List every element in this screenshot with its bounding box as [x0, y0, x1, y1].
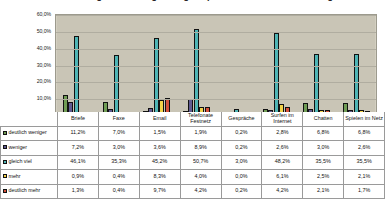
table-cell: 0,2% [221, 184, 262, 199]
table-cell: 35,3% [98, 155, 139, 170]
legend-label: deutlich weniger [9, 129, 47, 135]
table-cell: 4,0% [180, 170, 221, 185]
bar [354, 54, 359, 114]
legend-row-header: gleich viel [1, 155, 58, 170]
category-header: Gespräche [221, 112, 262, 126]
category-header: Spielen im Netz [344, 112, 385, 126]
table-header-row: BriefeFaxeEmailTelefonate FestnetzGesprä… [1, 112, 385, 126]
category-header: Briefe [58, 112, 99, 126]
table-cell: 0,4% [98, 184, 139, 199]
category-header: Telefonate Festnetz [180, 112, 221, 126]
table-cell: 8,3% [139, 170, 180, 185]
table-cell: 2,5% [303, 170, 344, 185]
legend-label: deutlich mehr [9, 187, 41, 193]
table-cell: 0,9% [58, 170, 99, 185]
y-axis-tick-label: 60,0% [37, 11, 51, 17]
y-axis-tick-label: 40,0% [37, 45, 51, 51]
table-cell: 4,2% [262, 184, 303, 199]
table-cell: 0,4% [98, 170, 139, 185]
data-table: BriefeFaxeEmailTelefonate FestnetzGesprä… [0, 112, 385, 199]
table-cell: 3,0% [221, 155, 262, 170]
bar [274, 33, 279, 114]
table-cell: 1,7% [344, 184, 385, 199]
category-header: Faxe [98, 112, 139, 126]
y-axis-labels: 60,0%50,0%40,0%30,0%20,0%10,0%0,0% [0, 11, 54, 115]
table-cell: 0,2% [221, 126, 262, 141]
gridline [56, 15, 376, 16]
table-corner [1, 112, 58, 126]
gridline [56, 66, 376, 67]
legend-swatch-icon [3, 145, 7, 149]
table-cell: 1,9% [180, 126, 221, 141]
table-cell: 1,5% [139, 126, 180, 141]
table-cell: 2,1% [303, 184, 344, 199]
legend-row-header: mehr [1, 170, 58, 185]
table-row: mehr0,9%0,4%8,3%4,0%0,0%6,1%2,5%2,1% [1, 170, 385, 185]
chart-page: Veränderung der Nutzungshäufigkeit priva… [0, 0, 385, 212]
legend-swatch-icon [3, 174, 7, 178]
gridline [56, 32, 376, 33]
y-axis-tick-label: 30,0% [37, 62, 51, 68]
table-cell: 2,6% [344, 141, 385, 156]
table-cell: 9,7% [139, 184, 180, 199]
table-cell: 3,0% [98, 141, 139, 156]
legend-row-header: deutlich mehr [1, 184, 58, 199]
chart-title: Veränderung der Nutzungshäufigkeit priva… [0, 0, 385, 1]
table-row: deutlich weniger11,2%7,0%1,5%1,9%0,2%2,8… [1, 126, 385, 141]
table-cell: 2,1% [344, 170, 385, 185]
table-cell: 45,2% [139, 155, 180, 170]
table-row: deutlich mehr1,3%0,4%9,7%4,2%0,2%4,2%2,1… [1, 184, 385, 199]
legend-label: gleich viel [9, 158, 32, 164]
table-cell: 11,2% [58, 126, 99, 141]
table-cell: 6,8% [344, 126, 385, 141]
bar [314, 54, 319, 114]
legend-swatch-icon [3, 189, 7, 193]
y-axis-tick-label: 50,0% [37, 28, 51, 34]
table-cell: 8,9% [180, 141, 221, 156]
table-body: deutlich weniger11,2%7,0%1,5%1,9%0,2%2,8… [1, 126, 385, 199]
table-cell: 2,6% [262, 141, 303, 156]
table-row: weniger7,2%3,0%3,6%8,9%0,2%2,6%3,0%2,6% [1, 141, 385, 156]
legend-label: mehr [9, 173, 21, 179]
table-cell: 35,5% [344, 155, 385, 170]
table-cell: 7,0% [98, 126, 139, 141]
table-cell: 48,2% [262, 155, 303, 170]
table-cell: 1,3% [58, 184, 99, 199]
category-header: Chatten [303, 112, 344, 126]
bar [114, 55, 119, 114]
table-row: gleich viel46,1%35,3%45,2%50,7%3,0%48,2%… [1, 155, 385, 170]
table-cell: 4,2% [180, 184, 221, 199]
y-axis-tick-label: 10,0% [37, 95, 51, 101]
table-cell: 2,8% [262, 126, 303, 141]
table-cell: 0,2% [221, 141, 262, 156]
table-cell: 6,1% [262, 170, 303, 185]
gridline [56, 99, 376, 100]
legend-row-header: weniger [1, 141, 58, 156]
gridline [56, 82, 376, 83]
legend-swatch-icon [3, 131, 7, 135]
plot-area [55, 14, 377, 115]
legend-row-header: deutlich weniger [1, 126, 58, 141]
table-cell: 6,8% [303, 126, 344, 141]
table-cell: 50,7% [180, 155, 221, 170]
table-cell: 3,0% [303, 141, 344, 156]
bar [194, 29, 199, 114]
table-cell: 46,1% [58, 155, 99, 170]
table-cell: 0,0% [221, 170, 262, 185]
category-header: Email [139, 112, 180, 126]
table-cell: 35,5% [303, 155, 344, 170]
legend-swatch-icon [3, 160, 7, 164]
y-axis-tick-label: 20,0% [37, 78, 51, 84]
legend-label: weniger [9, 144, 28, 150]
table-cell: 7,2% [58, 141, 99, 156]
gridline [56, 49, 376, 50]
category-header: Surfen im Internet [262, 112, 303, 126]
table-cell: 3,6% [139, 141, 180, 156]
